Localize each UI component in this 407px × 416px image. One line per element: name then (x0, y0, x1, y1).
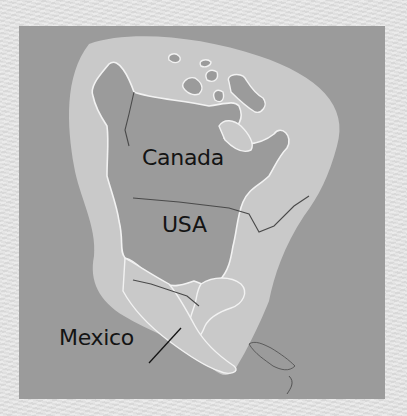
label-canada: Canada (142, 147, 224, 169)
southern-coast-line (287, 376, 292, 394)
label-mexico: Mexico (59, 327, 134, 349)
label-usa: USA (162, 214, 207, 236)
central-america (249, 342, 295, 369)
